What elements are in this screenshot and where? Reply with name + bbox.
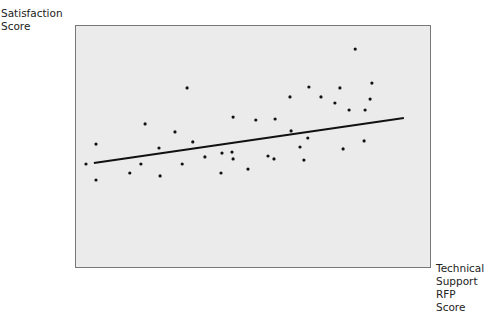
data-point bbox=[274, 117, 277, 120]
data-point bbox=[363, 139, 366, 142]
data-point bbox=[306, 136, 309, 139]
x-axis-label-line-1: Technical bbox=[436, 262, 494, 275]
data-point bbox=[144, 122, 147, 125]
data-point bbox=[288, 95, 291, 98]
data-point bbox=[319, 95, 322, 98]
data-point bbox=[364, 108, 367, 111]
data-point bbox=[181, 162, 184, 165]
x-axis-label-line-3: Score bbox=[436, 301, 494, 314]
data-point bbox=[302, 159, 305, 162]
data-point bbox=[232, 116, 235, 119]
data-point bbox=[94, 178, 97, 181]
data-point bbox=[94, 143, 97, 146]
data-point bbox=[272, 157, 275, 160]
data-point bbox=[342, 147, 345, 150]
data-point bbox=[298, 145, 301, 148]
data-point bbox=[266, 154, 269, 157]
data-point bbox=[338, 86, 341, 89]
data-point bbox=[246, 168, 249, 171]
plot-area bbox=[76, 26, 431, 268]
x-axis-label: Technical Support RFP Score bbox=[436, 262, 494, 314]
data-point bbox=[139, 162, 142, 165]
data-point bbox=[128, 171, 131, 174]
data-point bbox=[159, 174, 162, 177]
data-point bbox=[173, 130, 176, 133]
data-point bbox=[219, 171, 222, 174]
data-point bbox=[203, 155, 206, 158]
data-point bbox=[232, 157, 235, 160]
data-point bbox=[333, 101, 336, 104]
x-axis-label-line-2: Support RFP bbox=[436, 275, 494, 301]
data-point bbox=[254, 118, 257, 121]
data-point bbox=[307, 85, 310, 88]
data-point bbox=[191, 140, 194, 143]
data-point bbox=[186, 86, 189, 89]
data-point bbox=[84, 162, 87, 165]
data-point bbox=[290, 129, 293, 132]
data-point bbox=[370, 82, 373, 85]
data-point bbox=[348, 108, 351, 111]
data-point bbox=[220, 152, 223, 155]
data-point bbox=[157, 146, 160, 149]
data-point bbox=[230, 151, 233, 154]
data-point bbox=[354, 48, 357, 51]
data-point bbox=[369, 98, 372, 101]
